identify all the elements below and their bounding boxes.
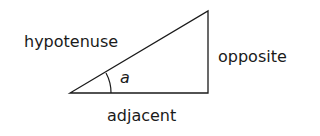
adjacent-label: adjacent <box>107 108 176 124</box>
hypotenuse-label: hypotenuse <box>24 34 118 50</box>
opposite-label: opposite <box>218 49 287 65</box>
right-triangle <box>70 11 208 93</box>
angle-arc <box>106 73 111 93</box>
angle-label: a <box>120 70 130 86</box>
